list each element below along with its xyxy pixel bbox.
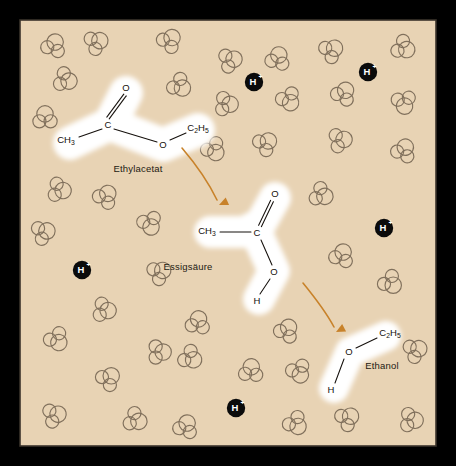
proton-charge-label: + [372, 63, 376, 70]
proton-label: H [232, 402, 239, 413]
atom-label-hydroxyl-oxygen: O [345, 346, 352, 357]
proton-charge-label: + [388, 219, 392, 226]
proton-mid-right: H+ [375, 219, 393, 237]
proton-top-center: H+ [245, 73, 263, 91]
atom-label-carbonyl-oxygen: O [122, 82, 129, 93]
proton-mid-left: H+ [73, 261, 91, 279]
proton-charge-label: + [240, 399, 244, 406]
atom-label-carbonyl-carbon: C [105, 119, 112, 130]
proton-charge-label: + [86, 261, 90, 268]
atom-label-carboxyl-carbon: C [254, 227, 261, 238]
atom-label-ester-oxygen: O [159, 139, 166, 150]
atom-label-hydroxyl-hydrogen: H [328, 384, 335, 395]
proton-bottom: H+ [227, 399, 245, 417]
proton-label: H [78, 264, 85, 275]
atom-label-carbonyl-oxygen: O [271, 188, 278, 199]
molecule-label-acetic-acid: Essigsäure [164, 261, 213, 272]
chemistry-diagram: CH3COOC2H5EthylacetatCH3COOHEssigsäureC2… [0, 0, 456, 466]
proton-charge-label: + [258, 73, 262, 80]
atom-label-hydroxyl-oxygen: O [270, 266, 277, 277]
molecule-label-ethanol: Ethanol [365, 360, 399, 371]
proton-label: H [364, 66, 371, 77]
molecule-label-ethyl-acetate: Ethylacetat [113, 163, 162, 174]
atom-label-hydroxyl-hydrogen: H [254, 295, 261, 306]
figure-root: CH3COOC2H5EthylacetatCH3COOHEssigsäureC2… [0, 0, 456, 466]
proton-label: H [250, 76, 257, 87]
proton-label: H [380, 222, 387, 233]
proton-top-right: H+ [359, 63, 377, 81]
